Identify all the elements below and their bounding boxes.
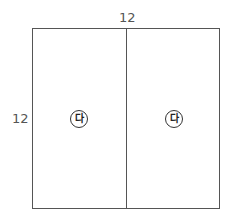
vertical-divider-line (126, 28, 127, 209)
right-region-text: 다 (170, 114, 179, 124)
height-dimension-label: 12 (12, 112, 29, 125)
right-region-circled-label: 다 (165, 110, 183, 128)
left-region-circled-label: 다 (70, 110, 88, 128)
width-dimension-label: 12 (119, 11, 136, 24)
left-region-text: 다 (75, 114, 84, 124)
